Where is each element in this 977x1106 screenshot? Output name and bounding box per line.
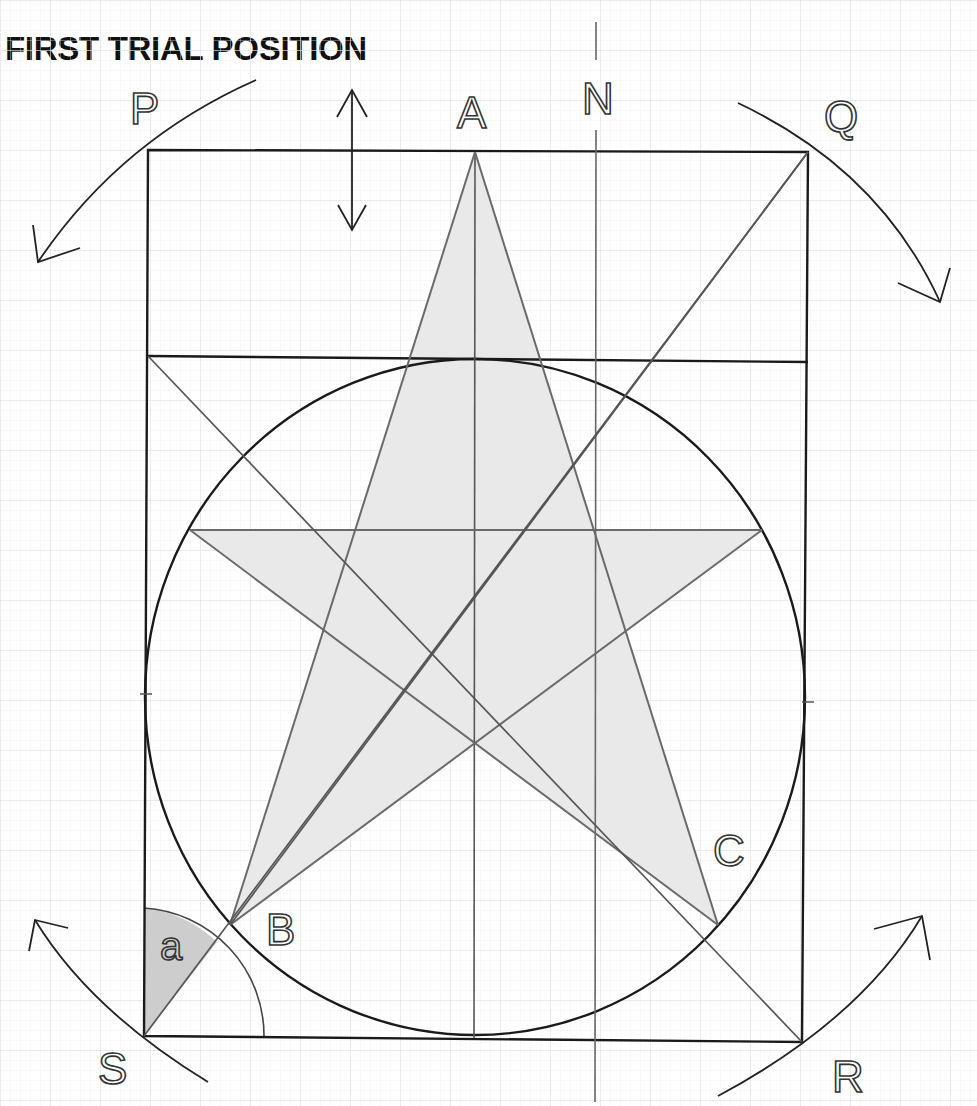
pentagram-construction-diagram: P A N Q B C S R a <box>0 0 977 1106</box>
north-line <box>595 130 596 1102</box>
label-n: N <box>582 74 614 123</box>
label-q: Q <box>824 92 858 141</box>
label-p: P <box>130 84 159 133</box>
label-r: R <box>832 1052 864 1101</box>
label-s: S <box>98 1044 127 1093</box>
label-a: A <box>457 88 487 137</box>
label-c: C <box>713 826 745 875</box>
label-b: B <box>266 905 295 954</box>
label-angle-a: a <box>160 924 183 968</box>
